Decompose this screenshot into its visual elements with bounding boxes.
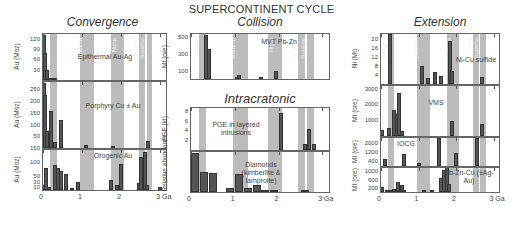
x-tick-mark bbox=[456, 86, 457, 89]
x-tick-label: 2 bbox=[117, 193, 121, 200]
y-tick-label: 4 bbox=[360, 72, 378, 78]
chart-panel-pge-in-layered-intrusions: PGE in layered intrusions bbox=[190, 107, 330, 151]
y-tick-label: 2000 bbox=[360, 101, 378, 107]
data-bar bbox=[59, 171, 63, 190]
band-label: Pangea bbox=[192, 38, 198, 59]
x-tick-mark bbox=[322, 34, 323, 37]
x-tick-mark bbox=[494, 34, 495, 37]
y-tick-label: 120 bbox=[22, 36, 40, 42]
y-tick-label: 150 bbox=[22, 145, 40, 151]
x-tick-mark bbox=[279, 152, 280, 155]
x-tick-mark bbox=[235, 152, 236, 155]
data-bar bbox=[380, 187, 384, 192]
x-tick-mark bbox=[43, 150, 44, 153]
panel-label: Porphyry Cu ± Au bbox=[83, 102, 143, 110]
y-tick-label: 150 bbox=[22, 110, 40, 116]
band-label: Sclavia bbox=[466, 38, 472, 57]
data-bar bbox=[437, 138, 441, 166]
y-tick-label: 1200 bbox=[360, 149, 378, 155]
y-tick-label: 8 bbox=[360, 63, 378, 69]
data-bar bbox=[59, 120, 63, 148]
supercontinent-band bbox=[147, 82, 153, 148]
y-tick-label: 2 bbox=[170, 137, 188, 143]
chart-panel-ni-cu-sulfide: PangeaRodiniaNunaSclaviaSuperiaNi-Cu sul… bbox=[380, 33, 500, 85]
band-label: Pangea bbox=[381, 38, 387, 59]
panel-label: Diamonds (kimberlite & lamproite) bbox=[231, 161, 291, 185]
y-tick-label: 10 bbox=[22, 184, 40, 190]
panel-label: PGE in layered intrusions bbox=[206, 121, 266, 137]
data-bar bbox=[433, 72, 437, 84]
data-bar bbox=[454, 153, 458, 166]
x-tick-mark bbox=[82, 34, 83, 37]
y-tick-label: 6 bbox=[170, 118, 188, 124]
x-tick-mark bbox=[381, 34, 382, 37]
panel-label: VMS bbox=[406, 99, 466, 107]
data-bar bbox=[84, 145, 88, 148]
x-tick-label: 0 bbox=[39, 193, 43, 200]
y-tick-label: 8 bbox=[170, 108, 188, 114]
data-bar bbox=[402, 190, 406, 192]
x-tick-mark bbox=[419, 34, 420, 37]
x-tick-mark bbox=[235, 34, 236, 37]
y-tick-label: 60 bbox=[22, 56, 40, 62]
data-bar bbox=[111, 146, 115, 148]
y-axis-label: Mt (ore) bbox=[351, 160, 358, 200]
data-bar bbox=[447, 184, 451, 192]
band-label: Superia bbox=[139, 38, 145, 59]
y-tick-label: 200 bbox=[22, 98, 40, 104]
chart-panel-iocg: IOCG bbox=[380, 137, 500, 167]
y-tick-label: 1000 bbox=[360, 168, 378, 174]
supercontinent-band bbox=[480, 138, 486, 166]
x-tick-label: 3 Ga bbox=[490, 195, 505, 202]
chart-panel-pb-zn-cu-ag-au-: Pb-Zn-Cu (±Ag-Au) bbox=[380, 167, 500, 193]
band-label: Rodinia bbox=[413, 38, 419, 58]
x-tick-mark bbox=[494, 138, 495, 141]
col-title-collision: Collision bbox=[190, 15, 330, 29]
data-bar bbox=[119, 164, 123, 190]
chart-panel-mvt-pb-zn: PangeaRodiniaNunaSclaviaSuperiaMVT Pb-Zn bbox=[190, 33, 330, 80]
data-bar bbox=[420, 66, 424, 84]
x-tick-mark bbox=[381, 168, 382, 171]
col-title-extension: Extension bbox=[380, 15, 500, 29]
x-tick-label: 3 Ga bbox=[318, 195, 333, 202]
x-tick-mark bbox=[121, 82, 122, 85]
data-bar bbox=[64, 174, 68, 190]
y-tick-label: 600 bbox=[360, 177, 378, 183]
x-tick-mark bbox=[191, 108, 192, 111]
x-tick-label: 0 bbox=[187, 195, 191, 202]
panel-label: IOCG bbox=[380, 140, 436, 148]
supercontinent-band bbox=[139, 82, 145, 148]
y-tick-label: 200 bbox=[360, 185, 378, 191]
data-bar bbox=[388, 34, 392, 84]
x-tick-mark bbox=[191, 152, 192, 155]
panel-label: Pb-Zn-Cu (±Ag-Au) bbox=[439, 169, 499, 185]
x-tick-mark bbox=[121, 34, 122, 37]
data-bar bbox=[237, 75, 241, 79]
y-tick-label: 30 bbox=[22, 67, 40, 73]
x-tick-mark bbox=[456, 138, 457, 141]
x-tick-mark bbox=[43, 82, 44, 85]
panel-label: MVT Pb-Zn bbox=[249, 38, 309, 46]
y-axis-label: Ni (Mt) bbox=[351, 39, 358, 79]
x-tick-mark bbox=[279, 108, 280, 111]
data-bar bbox=[422, 190, 426, 192]
data-bar bbox=[400, 131, 404, 136]
data-bar bbox=[383, 159, 387, 166]
supercontinent-band bbox=[473, 86, 479, 136]
data-bar bbox=[274, 71, 278, 79]
data-bar bbox=[397, 93, 401, 136]
data-bar bbox=[312, 144, 316, 150]
x-tick-mark bbox=[381, 86, 382, 89]
data-bar bbox=[402, 154, 406, 166]
data-bar bbox=[270, 190, 278, 192]
x-tick-mark bbox=[494, 86, 495, 89]
chart-panel-diamonds-kimberlite-lamproite-: Diamonds (kimberlite & lamproite) bbox=[190, 151, 330, 193]
data-bar bbox=[145, 185, 149, 190]
x-tick-mark bbox=[419, 168, 420, 171]
y-axis-label: Mt (ore) bbox=[161, 36, 168, 76]
x-tick-label: 2 bbox=[275, 195, 279, 202]
data-bar bbox=[109, 180, 113, 190]
supercontinent-band: Superia bbox=[147, 34, 153, 80]
y-tick-label: 100 bbox=[22, 159, 40, 165]
data-bar bbox=[261, 190, 269, 192]
